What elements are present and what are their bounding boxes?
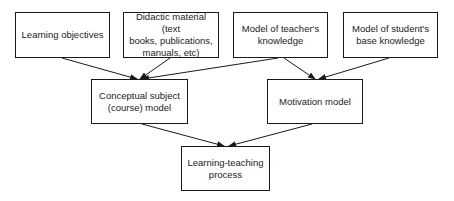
diagram-canvas: Learning objectives Didactic material (t… — [0, 0, 454, 201]
arrow-teacher-knowledge-to-motivation-model — [284, 58, 315, 79]
node-didactic-material: Didactic material (text books, publicati… — [123, 12, 219, 58]
arrow-conceptual-model-to-learning-teaching — [142, 124, 224, 146]
node-conceptual-model: Conceptual subject (course) model — [91, 79, 188, 124]
arrow-motivation-model-to-learning-teaching — [229, 124, 312, 146]
arrow-student-knowledge-to-motivation-model — [319, 58, 389, 79]
arrow-teacher-knowledge-to-conceptual-model — [142, 58, 278, 79]
node-student-knowledge: Model of student's base knowledge — [343, 12, 438, 58]
node-motivation-model: Motivation model — [267, 79, 363, 124]
node-learning-teaching: Learning-teaching process — [181, 146, 270, 191]
node-teacher-knowledge: Model of teacher's knowledge — [233, 12, 328, 58]
node-learning-objectives: Learning objectives — [15, 12, 110, 58]
arrow-learning-objectives-to-conceptual-model — [62, 58, 137, 79]
